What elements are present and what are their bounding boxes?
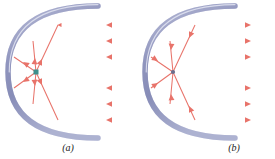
panel-a-label: (a) [62, 142, 74, 154]
focal-point-marker-b [171, 70, 175, 74]
panel-b-label: (b) [228, 142, 240, 154]
parabolic-mirror-figure: (a) [0, 0, 275, 159]
focal-point-marker-a [34, 70, 39, 75]
